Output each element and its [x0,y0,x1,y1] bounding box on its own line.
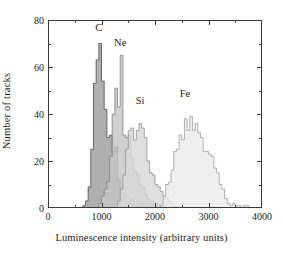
axes-frame [48,20,262,208]
x-tick-label: 4000 [232,211,283,222]
x-tick-bottom [128,205,129,208]
y-tick-left [48,138,51,139]
x-tick-top [182,20,183,23]
y-tick-label: 40 [0,109,44,120]
y-tick-label: 60 [0,62,44,73]
figure: Number of tracks 020406080 0100020003000… [0,0,283,257]
y-tick-right [259,44,262,45]
x-tick-top [209,20,210,25]
x-tick-top [235,20,236,23]
y-tick-right [259,138,262,139]
x-tick-top [75,20,76,23]
x-axis-label: Luminescence intensity (arbitrary units) [0,232,283,243]
x-tick-top [128,20,129,23]
series-label-fe: Fe [180,88,191,99]
series-label-si: Si [136,95,145,106]
x-tick-label: 1000 [72,211,132,222]
y-tick-right [257,114,262,115]
y-tick-label: 20 [0,156,44,167]
y-tick-label: 80 [0,15,44,26]
y-tick-left [48,114,53,115]
y-tick-right [259,185,262,186]
y-tick-left [48,91,51,92]
x-tick-bottom [235,205,236,208]
x-tick-top [155,20,156,25]
x-tick-bottom [182,205,183,208]
y-tick-right [257,161,262,162]
x-tick-bottom [102,203,103,208]
x-tick-label: 3000 [179,211,239,222]
y-tick-right [259,91,262,92]
plot-area [48,20,262,208]
y-tick-right [257,67,262,68]
y-tick-left [48,161,53,162]
x-tick-bottom [155,203,156,208]
series-label-ne: Ne [114,37,126,48]
series-label-c: C [95,22,102,33]
y-tick-left [48,44,51,45]
x-tick-label: 2000 [125,211,185,222]
x-tick-bottom [75,205,76,208]
y-tick-left [48,67,53,68]
x-tick-bottom [209,203,210,208]
x-tick-label: 0 [18,211,78,222]
y-tick-left [48,185,51,186]
